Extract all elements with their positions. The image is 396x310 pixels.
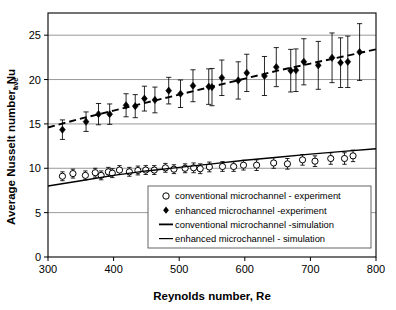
ytick-label-10: 10 bbox=[29, 162, 41, 174]
data-point-open-circle bbox=[284, 161, 290, 167]
legend-item-label: conventional microchannel -simulation bbox=[175, 219, 334, 230]
y-axis-title-subscript: ave bbox=[11, 77, 20, 90]
data-point-open-circle bbox=[116, 167, 122, 173]
data-point-open-circle bbox=[299, 157, 305, 163]
xtick-label-400: 400 bbox=[104, 263, 122, 275]
data-point-open-circle bbox=[240, 162, 246, 168]
data-point-open-circle bbox=[162, 165, 168, 171]
xtick-label-600: 600 bbox=[236, 263, 254, 275]
ytick-label-0: 0 bbox=[35, 251, 41, 263]
chart-background bbox=[0, 0, 396, 310]
legend-item-label: enhanced microchannel - simulation bbox=[175, 233, 325, 244]
chart-figure: 0510152025300400500600700800 Average Nus… bbox=[0, 0, 396, 310]
data-point-open-circle bbox=[341, 155, 347, 161]
legend-item-label: conventional microchannel - experiment bbox=[175, 190, 341, 201]
data-point-open-circle bbox=[328, 155, 334, 161]
xtick-label-800: 800 bbox=[367, 263, 385, 275]
xtick-label-500: 500 bbox=[170, 263, 188, 275]
data-point-open-circle bbox=[59, 173, 65, 179]
data-point-open-circle bbox=[197, 166, 203, 172]
data-point-open-circle bbox=[171, 166, 177, 172]
nusselt-vs-reynolds-chart: 0510152025300400500600700800 Average Nus… bbox=[0, 0, 396, 310]
legend-item-1[interactable]: enhanced microchannel -experiment bbox=[163, 205, 327, 216]
ytick-label-5: 5 bbox=[35, 207, 41, 219]
data-point-open-circle bbox=[254, 162, 260, 168]
data-point-open-circle bbox=[350, 153, 356, 159]
x-axis-title: Reynolds number, Re bbox=[153, 290, 271, 302]
legend-item-2[interactable]: conventional microchannel -simulation bbox=[159, 219, 334, 230]
data-point-open-circle bbox=[92, 170, 98, 176]
data-point-open-circle bbox=[70, 170, 76, 176]
data-point-open-circle bbox=[271, 160, 277, 166]
legend-item-0[interactable]: conventional microchannel - experiment bbox=[163, 190, 341, 201]
data-point-open-circle bbox=[219, 163, 225, 169]
legend-item-3[interactable]: enhanced microchannel - simulation bbox=[159, 233, 325, 244]
data-point-open-circle bbox=[231, 163, 237, 169]
data-point-open-circle bbox=[82, 172, 88, 178]
data-point-open-circle bbox=[312, 158, 318, 164]
data-point-open-circle bbox=[143, 167, 149, 173]
legend-item-label: enhanced microchannel -experiment bbox=[175, 205, 327, 216]
y-axis-title: Average Nusselt number, Nu bbox=[5, 69, 17, 225]
xtick-label-700: 700 bbox=[301, 263, 319, 275]
legend-open-circle-icon bbox=[163, 193, 169, 199]
ytick-label-25: 25 bbox=[29, 29, 41, 41]
chart-legend: conventional microchannel - experimenten… bbox=[148, 186, 371, 248]
ytick-label-20: 20 bbox=[29, 74, 41, 86]
xtick-label-300: 300 bbox=[39, 263, 57, 275]
ytick-label-15: 15 bbox=[29, 118, 41, 130]
